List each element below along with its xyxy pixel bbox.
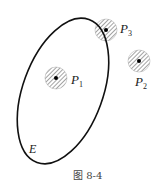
point-p1-dot	[54, 76, 58, 80]
label-p1: P1	[70, 72, 83, 89]
point-p3-dot	[104, 28, 108, 32]
neighborhood-p3	[95, 19, 117, 41]
figure: P1 P2 P3 E 图 8-4	[0, 0, 160, 188]
neighborhood-p1	[45, 67, 67, 89]
neighborhood-p2	[128, 50, 150, 72]
figure-caption: 图 8-4	[73, 170, 102, 181]
label-p3: P3	[119, 21, 132, 38]
label-e: E	[28, 142, 37, 156]
point-p2-dot	[137, 59, 141, 63]
label-p2: P2	[134, 74, 147, 91]
